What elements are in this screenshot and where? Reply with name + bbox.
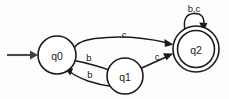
transition-q0-q2-arrowhead	[164, 39, 173, 47]
transition-q0-q1-path	[74, 61, 111, 72]
fsm-canvas: c b b c b,c q0	[0, 0, 229, 99]
transition-q2-self-label: b,c	[188, 3, 201, 14]
transition-q1-q0: b	[64, 67, 112, 87]
transition-q0-q2-path	[75, 37, 166, 48]
state-q0-label: q0	[51, 50, 63, 62]
state-q1-label: q1	[119, 71, 131, 83]
transition-q1-q2-arrowhead	[163, 53, 173, 60]
state-q2-label: q2	[190, 44, 202, 56]
state-q0[interactable]: q0	[38, 36, 76, 74]
state-machine-diagram: c b b c b,c q0	[0, 0, 229, 99]
transition-q1-q2-label: c	[155, 51, 160, 62]
transition-q0-q2-label: c	[122, 29, 127, 40]
transition-q1-q2: c	[141, 51, 174, 69]
transition-q1-q0-label: b	[87, 69, 92, 80]
state-q2[interactable]: q2	[173, 26, 219, 72]
start-arrow-head	[30, 51, 38, 60]
state-q1[interactable]: q1	[107, 58, 143, 94]
transition-q0-q2: c	[75, 29, 174, 48]
transition-q0-q1-label: b	[86, 52, 91, 63]
transition-q1-q2-path	[141, 57, 167, 69]
start-arrow	[7, 51, 38, 60]
